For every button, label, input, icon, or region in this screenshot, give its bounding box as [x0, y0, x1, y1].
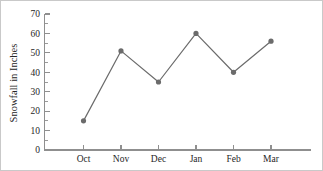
data-point-marker [81, 118, 86, 123]
chart-figure: 010203040506070 OctNovDecJanFebMar Snowf… [0, 0, 323, 171]
axes-group [45, 14, 312, 151]
snowfall-series-markers [81, 31, 274, 124]
snowfall-series-line [84, 33, 272, 120]
x-tick-label: Oct [77, 154, 91, 164]
y-tick-label: 50 [31, 48, 41, 58]
y-tick-label: 30 [31, 87, 41, 97]
x-tick-label: Feb [226, 154, 241, 164]
x-tick-label: Jan [190, 154, 203, 164]
y-tick-label: 40 [31, 68, 41, 78]
y-axis-ticks: 010203040506070 [31, 9, 50, 155]
data-point-marker [193, 31, 198, 36]
data-point-marker [156, 79, 161, 84]
y-tick-label: 10 [31, 126, 41, 136]
y-tick-label: 60 [31, 29, 41, 39]
y-tick-label: 20 [31, 106, 41, 116]
data-point-marker [231, 70, 236, 75]
x-tick-label: Mar [263, 154, 280, 164]
data-point-marker [268, 39, 273, 44]
snowfall-line-chart: 010203040506070 OctNovDecJanFebMar Snowf… [1, 1, 323, 171]
x-tick-label: Dec [151, 154, 166, 164]
y-tick-label: 70 [31, 9, 41, 19]
y-axis-title: Snowfall in Inches [8, 44, 19, 123]
data-point-marker [118, 48, 123, 53]
x-tick-label: Nov [113, 154, 130, 164]
y-tick-label: 0 [35, 145, 40, 155]
x-axis-ticks: OctNovDecJanFebMar [77, 145, 280, 165]
